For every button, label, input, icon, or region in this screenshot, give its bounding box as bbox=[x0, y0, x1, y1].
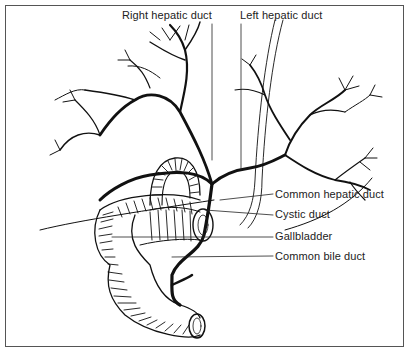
label-left-hepatic-duct: Left hepatic duct bbox=[240, 9, 322, 21]
duct-tree-drawing bbox=[40, 20, 382, 305]
label-common-bile-duct: Common bile duct bbox=[275, 250, 365, 262]
label-gallbladder: Gallbladder bbox=[275, 230, 332, 242]
label-right-hepatic-duct: Right hepatic duct bbox=[122, 9, 212, 21]
label-cystic-duct: Cystic duct bbox=[275, 208, 330, 220]
biliary-anatomy-illustration bbox=[0, 0, 409, 352]
label-common-hepatic-duct: Common hepatic duct bbox=[275, 188, 384, 200]
